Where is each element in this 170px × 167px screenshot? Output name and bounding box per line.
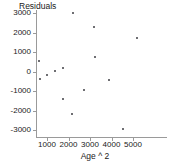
- y-axis-line: [36, 10, 37, 137]
- x-axis-line: [36, 137, 167, 138]
- data-point: [62, 67, 64, 69]
- y-tick-label: -3000: [11, 126, 31, 134]
- y-tick-label: -1000: [11, 87, 31, 95]
- y-tick-mark: [33, 130, 36, 131]
- data-point: [38, 60, 40, 62]
- y-tick-label: 1000: [13, 48, 31, 56]
- x-tick-label: 4000: [103, 141, 121, 149]
- x-tick-label: 3000: [81, 141, 99, 149]
- data-point: [122, 128, 124, 130]
- data-point: [136, 37, 138, 39]
- data-point: [72, 12, 74, 14]
- data-point: [46, 74, 48, 76]
- data-point: [54, 70, 56, 72]
- data-point: [71, 113, 73, 115]
- y-tick-label: 3000: [13, 9, 31, 17]
- data-point: [108, 79, 110, 81]
- y-tick-mark: [33, 91, 36, 92]
- y-tick-mark: [33, 111, 36, 112]
- data-point: [83, 89, 85, 91]
- y-tick-label: -2000: [11, 107, 31, 115]
- data-point: [94, 56, 96, 58]
- x-tick-label: 2000: [60, 141, 78, 149]
- y-tick-mark: [33, 52, 36, 53]
- data-point: [93, 26, 95, 28]
- y-tick-mark: [33, 72, 36, 73]
- y-tick-label: 2000: [13, 29, 31, 37]
- x-tick-label: 1000: [38, 141, 56, 149]
- x-tick-label: 5000: [124, 141, 142, 149]
- scatter-plot-figure: Residuals 3000200010000-1000-2000-3000 1…: [0, 0, 170, 167]
- data-point: [62, 98, 64, 100]
- y-tick-mark: [33, 33, 36, 34]
- x-axis-title: Age ^ 2: [0, 152, 170, 161]
- y-tick-mark: [33, 13, 36, 14]
- y-tick-label: 0: [27, 68, 31, 76]
- data-point: [39, 78, 41, 80]
